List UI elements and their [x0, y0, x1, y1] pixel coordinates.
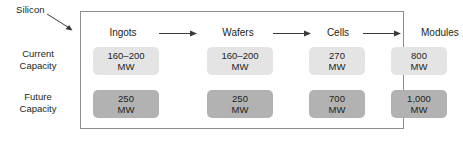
capacity-unit: MW: [329, 104, 346, 115]
row-label-future-line2: Capacity: [0, 103, 76, 115]
capacity-unit: MW: [232, 104, 249, 115]
row-label-future-line1: Future: [0, 91, 76, 103]
capacity-value: 250: [118, 93, 134, 104]
row-label-current-capacity: Current Capacity: [0, 48, 76, 71]
capacity-unit: MW: [232, 61, 249, 72]
capacity-box-current-ingots: 160–200 MW: [93, 47, 159, 75]
capacity-unit: MW: [329, 61, 346, 72]
capacity-box-current-modules: 800 MW: [391, 47, 447, 75]
capacity-box-future-ingots: 250 MW: [93, 90, 159, 118]
capacity-box-current-wafers: 160–200 MW: [207, 47, 273, 75]
capacity-unit: MW: [411, 104, 428, 115]
capacity-box-future-modules: 1,000 MW: [391, 90, 447, 118]
capacity-value: 270: [329, 50, 345, 61]
stage-modules: Modules: [329, 24, 463, 42]
diagram-frame: Ingots Wafers Cells Modules: [80, 11, 404, 129]
stage-label-modules: Modules: [421, 27, 459, 39]
capacity-unit: MW: [118, 61, 135, 72]
capacity-box-future-wafers: 250 MW: [207, 90, 273, 118]
future-capacity-row: 250 MW 250 MW 700 MW 1,000 MW: [81, 90, 405, 118]
row-label-current-line2: Capacity: [0, 60, 76, 72]
capacity-value: 700: [329, 93, 345, 104]
row-label-future-capacity: Future Capacity: [0, 91, 76, 114]
capacity-value: 1,000: [407, 93, 431, 104]
arrow-diagonal-icon: [14, 4, 84, 38]
current-capacity-row: 160–200 MW 160–200 MW 270 MW 800 MW: [81, 47, 405, 75]
capacity-box-current-cells: 270 MW: [309, 47, 365, 75]
capacity-value: 160–200: [108, 50, 145, 61]
stage-label-ingots: Ingots: [109, 27, 136, 39]
stage-header-row: Ingots Wafers Cells Modules: [81, 24, 405, 42]
capacity-value: 160–200: [222, 50, 259, 61]
stage-label-wafers: Wafers: [222, 27, 253, 39]
silicon-input-annotation: Silicon: [14, 4, 84, 38]
stage-wafers: Wafers: [199, 24, 277, 42]
capacity-value: 250: [232, 93, 248, 104]
row-label-current-line1: Current: [0, 48, 76, 60]
capacity-box-future-cells: 700 MW: [309, 90, 365, 118]
capacity-unit: MW: [411, 61, 428, 72]
stage-ingots: Ingots: [83, 24, 163, 42]
capacity-value: 800: [411, 50, 427, 61]
capacity-unit: MW: [118, 104, 135, 115]
arrow-right-icon-1: [157, 28, 201, 39]
